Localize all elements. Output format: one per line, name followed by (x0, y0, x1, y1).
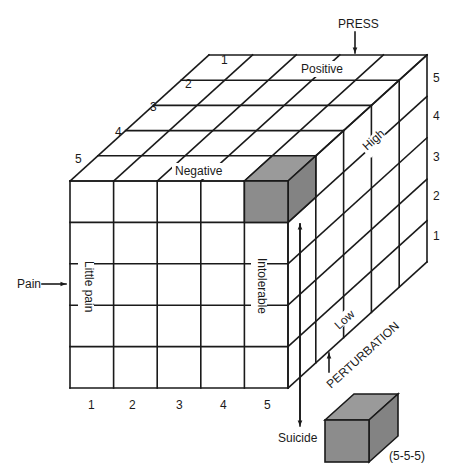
axis-arrows (42, 32, 357, 426)
pain-low-label: Little pain (82, 261, 96, 312)
perturbation-tick-5: 5 (433, 71, 440, 85)
press-tick-4: 4 (115, 125, 122, 139)
perturbation-tick-2: 2 (433, 189, 440, 203)
pain-tick-1: 1 (88, 398, 95, 412)
perturbation-tick-1: 1 (433, 229, 440, 243)
suicide-label: Suicide (278, 431, 318, 445)
pain-tick-5: 5 (264, 398, 271, 412)
press-tick-5: 5 (75, 152, 82, 166)
pain-tick-2: 2 (129, 398, 136, 412)
diagram-canvas: Pain Little pain Intolerable 1 2 3 4 5 P… (0, 0, 455, 476)
pain-axis-label: Pain (17, 277, 41, 291)
press-tick-2: 2 (185, 77, 192, 91)
press-high-label: Negative (175, 164, 223, 178)
press-low-label: Positive (301, 62, 343, 76)
pain-tick-4: 4 (220, 398, 227, 412)
suicide-cube (325, 394, 398, 462)
suicide-cell-label: (5-5-5) (389, 449, 425, 463)
perturbation-tick-4: 4 (433, 109, 440, 123)
pain-tick-3: 3 (176, 398, 183, 412)
press-tick-1: 1 (221, 53, 228, 67)
perturbation-tick-3: 3 (433, 150, 440, 164)
press-tick-3: 3 (150, 100, 157, 114)
press-axis-label: PRESS (338, 17, 379, 31)
pain-high-label: Intolerable (255, 258, 269, 314)
perturbation-axis-label: PERTURBATION (324, 319, 402, 392)
cubic-model-diagram: Pain Little pain Intolerable 1 2 3 4 5 P… (0, 0, 455, 476)
